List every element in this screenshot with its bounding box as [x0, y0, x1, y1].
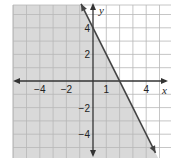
coordinate-plane: −4−21442−2−4 x y [0, 0, 171, 158]
x-tick-label: −4 [34, 84, 46, 95]
y-axis-up-arrow-icon [90, 3, 96, 10]
x-tick-label: −2 [61, 84, 73, 95]
y-tick-label: 2 [84, 49, 90, 60]
x-tick-label: 1 [104, 84, 110, 95]
x-tick-label: 4 [143, 84, 149, 95]
y-tick-label: −2 [79, 103, 91, 114]
y-tick-label: 4 [84, 23, 90, 34]
x-axis-label: x [161, 84, 167, 96]
y-tick-label: −4 [79, 129, 91, 140]
y-axis-label: y [98, 4, 104, 16]
